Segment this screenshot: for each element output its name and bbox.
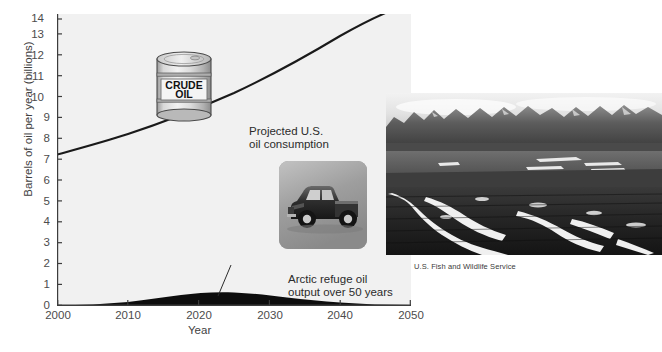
pickup-truck-photo — [279, 161, 367, 249]
y-tick-4: 4 — [24, 215, 50, 227]
plot-area: Projected U.S. oil consumption Arctic re… — [57, 14, 411, 306]
y-tick-3: 3 — [24, 236, 50, 248]
x-tick-2010: 2010 — [108, 309, 148, 321]
barrel-label-line2: OIL — [175, 88, 193, 100]
y-tick-14: 14 — [18, 12, 44, 24]
x-tick-2050: 2050 — [391, 309, 431, 321]
photo-credit: U.S. Fish and Wildlife Service — [414, 262, 516, 271]
y-axis-title: Barrels of oil per year (billions) — [22, 39, 34, 199]
truck-photo-svg — [279, 161, 367, 249]
projected-consumption-line — [57, 14, 395, 155]
x-tick-2040: 2040 — [320, 309, 360, 321]
tundra-photo-svg — [386, 93, 662, 255]
y-tick-2: 2 — [24, 257, 50, 269]
crude-oil-barrel-graphic: CRUDE OIL — [151, 49, 217, 125]
arctic-refuge-label: Arctic refuge oil output over 50 years — [288, 273, 393, 299]
barrel-icon: CRUDE OIL — [151, 49, 217, 125]
projected-consumption-label: Projected U.S. oil consumption — [249, 125, 329, 151]
chart-figure: Projected U.S. oil consumption Arctic re… — [0, 0, 662, 352]
x-axis-title: Year — [188, 324, 211, 336]
x-tick-2020: 2020 — [179, 309, 219, 321]
y-tick-1: 1 — [24, 278, 50, 290]
x-tick-2000: 2000 — [38, 309, 78, 321]
arctic-tundra-photo — [386, 93, 662, 255]
x-tick-2030: 2030 — [250, 309, 290, 321]
plot-svg — [57, 14, 411, 306]
arctic-label-leader-line — [218, 265, 231, 296]
